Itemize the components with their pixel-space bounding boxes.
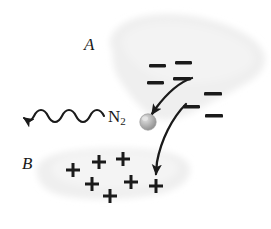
minus-sign [204, 92, 222, 96]
nitrogen-symbol: N [108, 107, 120, 126]
minus-sign [173, 77, 191, 80]
minus-sign [147, 81, 164, 84]
minus-sign [183, 105, 200, 108]
wavy-emission-arrow [24, 110, 104, 122]
charge-separation-diagram: A B N2 [0, 0, 271, 229]
diagram-canvas [0, 0, 271, 229]
nitrogen-subscript: 2 [120, 115, 126, 127]
region-b-label: B [22, 155, 32, 172]
nitrogen-molecule-sphere [140, 114, 156, 130]
minus-sign [175, 61, 192, 64]
minus-sign [205, 114, 223, 118]
nitrogen-molecule-label: N2 [108, 108, 126, 125]
minus-sign [149, 64, 166, 67]
region-a-label: A [84, 36, 94, 53]
